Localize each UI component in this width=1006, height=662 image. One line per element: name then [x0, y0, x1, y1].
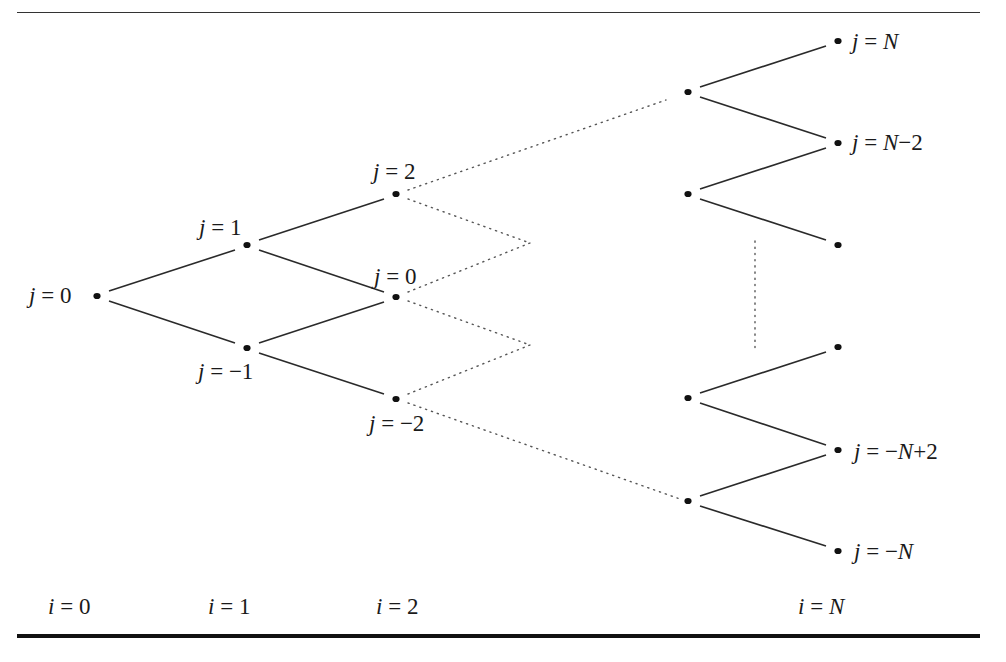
tree-node-dot [684, 498, 691, 504]
tree-edge [259, 353, 384, 394]
tree-edge [700, 46, 826, 87]
dotted-continuation-edge [408, 301, 530, 345]
node-label-i2_j0: j = 0 [374, 265, 416, 288]
tree-node-dot [684, 89, 691, 95]
dotted-continuation-edge [408, 199, 530, 243]
node-label-iN_jNm2: j = N−2 [852, 131, 923, 154]
tree-edges [109, 46, 826, 546]
tree-edge [259, 302, 384, 343]
tree-node-dot [392, 191, 399, 197]
node-label-i1_jm1: j = −1 [198, 360, 253, 383]
tree-node-dot [684, 395, 691, 401]
tree-node-dot [392, 294, 399, 300]
tree-edge [700, 352, 826, 393]
bottom-rule-divider [17, 634, 980, 638]
tree-node-dot [392, 396, 399, 402]
tree-edge [700, 403, 826, 445]
time-label-i1: i = 1 [208, 595, 250, 618]
node-label-i2_jm2: j = −2 [369, 412, 424, 435]
tree-node-dot [834, 447, 841, 453]
time-label-i2: i = 2 [376, 595, 418, 618]
tree-node-dot [834, 548, 841, 554]
tree-edge [700, 506, 826, 546]
node-label-i1_j1: j = 1 [199, 216, 241, 239]
time-label-i0: i = 0 [48, 595, 90, 618]
tree-node-dot [93, 293, 100, 299]
tree-edge [700, 148, 826, 189]
dotted-continuation-edge [408, 243, 530, 292]
lattice-figure: j = 0j = 1j = −1j = 2j = 0j = −2j = Nj =… [0, 0, 1006, 662]
dotted-continuation-edge [408, 345, 530, 394]
tree-edge [700, 97, 826, 138]
tree-node-dot [684, 191, 691, 197]
dotted-continuation-edge [408, 403, 680, 499]
tree-node-dot [834, 344, 841, 350]
dotted-continuation-edge [408, 100, 666, 190]
tree-edge [700, 199, 826, 240]
node-label-i2_j2: j = 2 [373, 160, 415, 183]
node-label-iN_jN: j = N [852, 30, 898, 53]
tree-edge [259, 250, 384, 292]
tree-edge [259, 199, 384, 240]
tree-dotted-edges [408, 100, 755, 499]
time-label-iN: i = N [798, 595, 844, 618]
tree-edge [700, 455, 826, 496]
tree-node-dot [834, 38, 841, 44]
node-label-iN_jmNp2: j = −N+2 [854, 440, 938, 463]
node-label-iN_jmN: j = −N [854, 540, 913, 563]
tree-node-dot [243, 345, 250, 351]
tree-edge [109, 301, 235, 343]
tree-nodes [93, 38, 841, 554]
tree-node-dot [834, 140, 841, 146]
node-label-i0_j0: j = 0 [29, 284, 71, 307]
tree-edge [109, 250, 235, 291]
tree-node-dot [243, 242, 250, 248]
tree-node-dot [834, 242, 841, 248]
